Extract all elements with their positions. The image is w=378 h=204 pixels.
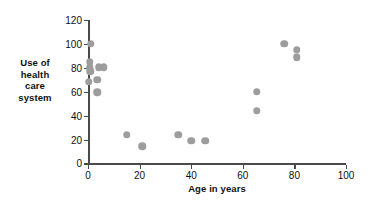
data-point <box>138 142 146 150</box>
y-tick-120 <box>84 20 88 21</box>
data-point <box>253 107 261 115</box>
data-point <box>293 53 301 61</box>
x-tick-label-0: 0 <box>85 170 91 181</box>
y-tick-label-80: 80 <box>71 62 82 73</box>
y-axis-title: Use ofhealthcaresystem <box>6 57 64 103</box>
x-axis-line <box>88 163 346 165</box>
x-tick-80 <box>294 165 295 169</box>
x-tick-label-40: 40 <box>186 170 197 181</box>
y-tick-label-120: 120 <box>65 15 82 26</box>
y-tick-60 <box>84 92 88 93</box>
y-axis-title-line-1: health <box>6 69 64 81</box>
x-tick-label-80: 80 <box>289 170 300 181</box>
x-tick-label-60: 60 <box>237 170 248 181</box>
plot-area: 020406080100120 020406080100 <box>88 20 346 165</box>
data-point <box>123 131 131 139</box>
data-point <box>253 88 261 96</box>
x-tick-0 <box>88 165 89 169</box>
x-tick-60 <box>243 165 244 169</box>
y-axis-title-line-2: care <box>6 80 64 92</box>
y-tick-label-0: 0 <box>76 158 82 169</box>
x-tick-label-100: 100 <box>338 170 355 181</box>
data-point <box>94 89 102 97</box>
y-tick-40 <box>84 116 88 117</box>
data-point <box>175 131 183 139</box>
y-axis-title-line-0: Use of <box>6 57 64 69</box>
x-axis-title: Age in years <box>88 183 346 194</box>
data-point <box>94 76 102 84</box>
scatter-plot-figure: Use ofhealthcaresystem Age in years 0204… <box>0 0 378 204</box>
y-tick-label-60: 60 <box>71 86 82 97</box>
x-tick-label-20: 20 <box>134 170 145 181</box>
data-point <box>187 137 195 145</box>
y-tick-20 <box>84 140 88 141</box>
x-tick-100 <box>346 165 347 169</box>
data-point <box>280 40 288 48</box>
data-point <box>86 68 94 76</box>
y-tick-label-20: 20 <box>71 134 82 145</box>
data-point <box>85 78 93 86</box>
data-point <box>100 63 108 71</box>
data-point <box>202 137 210 145</box>
x-tick-20 <box>140 165 141 169</box>
data-point <box>87 40 95 48</box>
y-tick-label-100: 100 <box>65 38 82 49</box>
x-tick-40 <box>191 165 192 169</box>
y-axis-title-line-3: system <box>6 92 64 104</box>
y-tick-label-40: 40 <box>71 110 82 121</box>
